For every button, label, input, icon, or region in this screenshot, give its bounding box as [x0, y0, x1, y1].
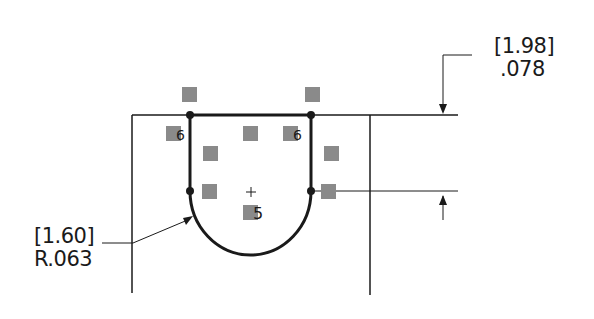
arrowheads [183, 104, 447, 225]
badge-label: 6 [293, 124, 301, 146]
extension-lines [102, 55, 472, 243]
dimension-top-bracket[interactable]: [1.98] [494, 35, 554, 57]
dimension-radius-bracket[interactable]: [1.60] [34, 225, 94, 247]
horizontal-icon[interactable] [243, 126, 258, 141]
fix-icon[interactable] [182, 87, 197, 102]
vertical-icon[interactable] [324, 146, 339, 161]
tangent-icon[interactable] [321, 184, 336, 199]
badge-label: 5 [253, 203, 263, 225]
badge-label: 6 [176, 124, 184, 146]
tangent-icon[interactable] [202, 184, 217, 199]
center-mark [246, 187, 256, 197]
dimension-radius-value[interactable]: R.063 [34, 248, 92, 270]
fix-icon[interactable] [305, 87, 320, 102]
vertical-icon[interactable] [203, 146, 218, 161]
dimension-top-value[interactable]: .078 [500, 58, 545, 80]
